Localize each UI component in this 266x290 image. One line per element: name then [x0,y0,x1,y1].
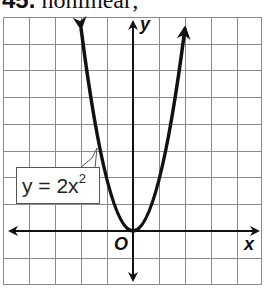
coordinate-plane [0,0,266,290]
origin-label: O [114,234,128,255]
equation-exponent: 2 [79,171,86,186]
equation-base: y = 2x [22,174,79,197]
x-axis-label: x [244,234,254,255]
y-axis-label: y [140,14,150,35]
equation-label: y = 2x2 [16,167,100,204]
